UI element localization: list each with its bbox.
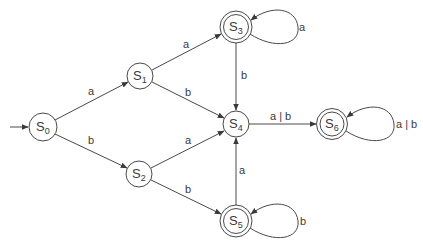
loop-label-s5: b: [300, 215, 306, 227]
edge-label-s1-s4: b: [185, 86, 191, 98]
loop-s5: [250, 204, 298, 238]
state-diagram: S0 S1 S2 S3 S4 S5 S6 a b a b a b b a a |…: [0, 0, 423, 244]
edge-label-s5-s4: a: [239, 164, 246, 176]
loop-s6: [346, 107, 394, 141]
loop-label-s6: a | b: [396, 118, 417, 130]
edge-label-s0-s2: b: [88, 134, 94, 146]
edge-label-s2-s4: a: [185, 134, 192, 146]
edge-label-s3-s4: b: [241, 69, 247, 81]
edge-label-s1-s3: a: [183, 38, 190, 50]
loop-s3: [250, 10, 298, 44]
edge-label-s4-s6: a | b: [270, 110, 291, 122]
edge-label-s2-s5: b: [185, 183, 191, 195]
loop-label-s3: a: [299, 21, 306, 33]
diagram-svg: S0 S1 S2 S3 S4 S5 S6 a b a b a b b a a |…: [0, 0, 423, 244]
edge-label-s0-s1: a: [88, 85, 95, 97]
